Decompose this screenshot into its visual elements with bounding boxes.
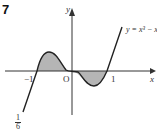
graph [0,0,157,135]
tick-label-one: 1 [111,74,116,84]
x-axis-label: x [150,74,154,84]
corner-fraction: 1 6 [15,114,21,131]
tick-label-neg-one: −1 [24,74,34,84]
y-axis-label: y [66,4,70,14]
curve-label: y = x³ − x [126,25,157,34]
origin-label: O [63,74,70,84]
fraction-denominator: 6 [16,122,20,131]
fraction-numerator: 1 [16,113,20,122]
shaded-region-left [37,52,68,71]
